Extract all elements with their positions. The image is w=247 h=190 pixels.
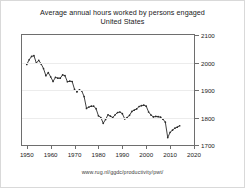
data-point [162, 118, 164, 120]
x-axis-tick [170, 146, 171, 149]
y-axis: 17001800190020002100 [195, 34, 246, 146]
data-point [33, 55, 35, 57]
chart-title-line2: United States [1, 17, 244, 26]
data-point [114, 114, 116, 116]
chart-title: Average annual hours worked by persons e… [1, 8, 244, 27]
y-axis-label: 1800 [201, 114, 215, 121]
data-point [57, 77, 59, 79]
y-axis-label: 2000 [201, 59, 215, 66]
data-point [76, 91, 78, 93]
x-axis-label: 2020 [187, 151, 201, 158]
data-point [164, 121, 166, 123]
gridline [22, 118, 194, 119]
data-point [148, 111, 150, 113]
data-point [62, 74, 64, 76]
data-point [38, 59, 40, 61]
data-point [176, 126, 178, 128]
y-axis-tick [195, 90, 199, 91]
y-axis-tick [195, 118, 199, 119]
chart-title-line1: Average annual hours worked by persons e… [40, 8, 205, 17]
data-point [174, 127, 176, 129]
data-point [98, 115, 100, 117]
x-axis-label: 2010 [163, 151, 177, 158]
data-point [150, 114, 152, 116]
data-point [179, 125, 181, 127]
data-point [102, 122, 104, 124]
data-point [90, 105, 92, 107]
data-point [169, 132, 171, 134]
data-point [69, 80, 71, 82]
data-point [28, 59, 30, 61]
data-point [107, 114, 109, 116]
source-url: www.rug.nl/ggdc/productivity/pwt/ [1, 169, 244, 175]
data-point [145, 105, 147, 107]
data-point [45, 75, 47, 77]
data-point [93, 105, 95, 107]
data-point [64, 75, 66, 77]
data-point [141, 105, 143, 107]
data-point [133, 109, 135, 111]
data-point [59, 77, 61, 79]
x-axis-tick [27, 146, 28, 149]
gridline [22, 90, 194, 91]
data-point [43, 68, 45, 70]
x-axis-label: 1950 [20, 151, 34, 158]
series-line [27, 56, 180, 138]
data-point [71, 81, 73, 83]
x-axis-tick [194, 146, 195, 149]
data-point [172, 129, 174, 131]
chart-figure: Average annual hours worked by persons e… [0, 0, 245, 188]
x-axis-label: 2000 [139, 151, 153, 158]
data-point [95, 108, 97, 110]
data-point [50, 76, 52, 78]
y-axis-tick [195, 35, 199, 36]
x-axis-tick [51, 146, 52, 149]
data-point [31, 56, 33, 58]
x-axis-tick [146, 146, 147, 149]
y-axis-label: 1900 [201, 87, 215, 94]
data-point [55, 77, 57, 79]
x-axis-tick [98, 146, 99, 149]
data-point [117, 112, 119, 114]
data-point [121, 113, 123, 115]
data-point [105, 119, 107, 121]
x-axis-label: 1970 [68, 151, 82, 158]
data-point [167, 137, 169, 139]
y-axis-label: 2100 [201, 32, 215, 39]
data-point [129, 114, 131, 116]
data-point [136, 108, 138, 110]
data-point [119, 111, 121, 113]
y-axis-label: 1700 [201, 142, 215, 149]
x-axis-label: 1960 [44, 151, 58, 158]
data-point [52, 81, 54, 83]
data-point [138, 106, 140, 108]
data-point [83, 96, 85, 98]
data-point [143, 104, 145, 106]
x-axis-tick [122, 146, 123, 149]
x-axis-label: 1990 [115, 151, 129, 158]
data-point [86, 108, 88, 110]
data-point [88, 106, 90, 108]
data-point [67, 81, 69, 83]
x-axis: 19501960197019801990200020102020 [21, 146, 196, 166]
plot-area [21, 34, 195, 146]
gridline [22, 63, 194, 64]
data-point [131, 111, 133, 113]
x-axis-label: 1980 [92, 151, 106, 158]
x-axis-tick [75, 146, 76, 149]
data-point [26, 64, 28, 66]
y-axis-tick [195, 63, 199, 64]
data-point [47, 72, 49, 74]
